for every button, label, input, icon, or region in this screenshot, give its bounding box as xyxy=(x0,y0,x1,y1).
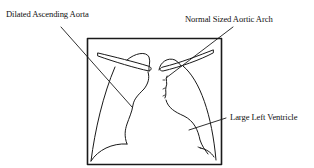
diaphragm-tick xyxy=(198,147,201,148)
left-heart-border xyxy=(166,100,208,154)
left-mediastinal-border xyxy=(165,76,167,98)
film-frame xyxy=(88,39,222,165)
leader-line-aortic-arch xyxy=(166,27,233,78)
right-diaphragm xyxy=(91,144,127,161)
diagram-drawing xyxy=(0,0,314,168)
label-large-left-ventricle: Large Left Ventricle xyxy=(230,113,297,122)
right-heart-border xyxy=(125,72,149,144)
left-clavicle xyxy=(160,50,213,71)
right-clavicle xyxy=(98,53,151,71)
right-lung-outer-border xyxy=(91,67,115,161)
left-lung-outer-border xyxy=(183,66,216,160)
aortic-arch-knob xyxy=(159,59,181,70)
chest-xray-diagram: Dilated Ascending Aorta Normal Sized Aor… xyxy=(0,0,314,168)
leader-line-left-ventricle xyxy=(189,118,226,130)
border-ticks xyxy=(163,80,165,96)
label-dilated-ascending-aorta: Dilated Ascending Aorta xyxy=(6,10,89,19)
label-normal-sized-aortic-arch: Normal Sized Aortic Arch xyxy=(185,15,273,24)
